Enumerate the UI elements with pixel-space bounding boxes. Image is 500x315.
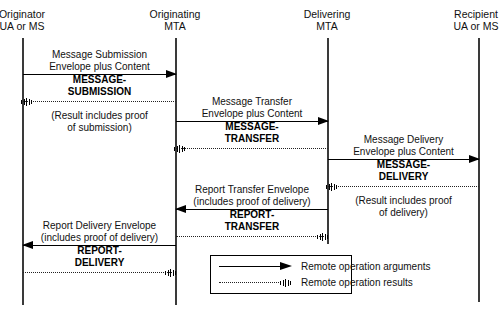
lifeline-header-line1: Originating <box>115 8 235 20</box>
operation-line1: REPORT- <box>230 209 274 220</box>
operation-line2: SUBMISSION <box>68 86 131 97</box>
arrow-head-icon <box>280 262 292 270</box>
result-terminator-icon <box>21 97 34 106</box>
lifeline-header-line2: MTA <box>115 20 235 32</box>
label-line1: Message Delivery <box>364 134 443 145</box>
lifeline-header-originating-mta: Originating MTA <box>115 8 235 32</box>
operation-line2: DELIVERY <box>75 257 125 268</box>
result-terminator-icon <box>174 144 187 153</box>
message-arguments-label-report-transfer: Report Transfer Envelope (includes proof… <box>176 184 328 207</box>
arrow-shaft <box>219 266 281 268</box>
message-arguments-label-message-delivery: Message Delivery Envelope plus Content <box>328 134 479 157</box>
operation-name-message-delivery: MESSAGE- DELIVERY <box>328 159 479 182</box>
result-dotted-line <box>176 148 328 149</box>
result-message-delivery <box>328 182 479 191</box>
result-note-message-delivery: (Result includes proof of delivery) <box>328 195 479 218</box>
lifeline-header-line2: MTA <box>267 20 387 32</box>
lifeline-header-line1: Originator <box>0 8 82 20</box>
result-message-transfer <box>176 144 328 153</box>
sequence-diagram: Originator UA or MS Originating MTA Deli… <box>0 0 500 315</box>
result-terminator-icon <box>317 232 330 241</box>
lifeline-header-delivering-mta: Delivering MTA <box>267 8 387 32</box>
label-line1: Message Submission <box>52 49 147 60</box>
label-line1: Message Transfer <box>212 96 292 107</box>
note-line1: (Result includes proof <box>51 110 148 121</box>
operation-line1: MESSAGE- <box>225 121 278 132</box>
lifeline-header-line1: Recipient <box>416 8 500 20</box>
lifeline-header-line2: UA or MS <box>0 20 82 32</box>
result-terminator-icon <box>165 268 178 277</box>
lifeline-header-originator: Originator UA or MS <box>0 8 82 32</box>
result-report-delivery <box>23 268 176 277</box>
operation-line1: REPORT- <box>77 245 121 256</box>
lifeline-header-line1: Delivering <box>267 8 387 20</box>
result-report-transfer <box>176 232 328 241</box>
result-terminator-icon <box>280 278 293 287</box>
message-arguments-label-report-delivery: Report Delivery Envelope (includes proof… <box>23 220 176 243</box>
operation-line2: TRANSFER <box>225 133 279 144</box>
legend-results-line <box>219 278 291 287</box>
result-dotted-line <box>328 186 479 187</box>
result-note-message-submission: (Result includes proof of submission) <box>23 110 176 133</box>
note-line1: (Result includes proof <box>355 195 452 206</box>
result-dotted-line <box>23 272 176 273</box>
legend-results-label: Remote operation results <box>301 277 413 288</box>
operation-name-report-transfer: REPORT- TRANSFER <box>176 209 328 232</box>
lifeline-header-line2: UA or MS <box>416 20 500 32</box>
label-line1: Report Transfer Envelope <box>195 184 309 195</box>
legend-box: Remote operation arguments Remote operat… <box>210 255 352 294</box>
operation-line1: MESSAGE- <box>73 74 126 85</box>
note-line2: of submission) <box>67 122 131 133</box>
operation-line2: TRANSFER <box>225 221 279 232</box>
result-dotted-line <box>176 236 328 237</box>
operation-line1: MESSAGE- <box>377 159 430 170</box>
legend-arguments-arrow <box>219 262 291 271</box>
operation-name-report-delivery: REPORT- DELIVERY <box>23 245 176 268</box>
note-line2: of delivery) <box>379 207 428 218</box>
operation-name-message-submission: MESSAGE- SUBMISSION <box>23 74 176 97</box>
result-dotted-line <box>23 101 176 102</box>
message-arguments-label-message-transfer: Message Transfer Envelope plus Content <box>176 96 328 119</box>
operation-name-message-transfer: MESSAGE- TRANSFER <box>176 121 328 144</box>
operation-line2: DELIVERY <box>379 171 429 182</box>
result-message-submission <box>23 97 176 106</box>
label-line1: Report Delivery Envelope <box>43 220 156 231</box>
legend-arguments-label: Remote operation arguments <box>301 261 431 272</box>
result-dotted-line <box>219 282 279 283</box>
message-arguments-label-message-submission: Message Submission Envelope plus Content <box>23 49 176 72</box>
lifeline-header-recipient: Recipient UA or MS <box>416 8 500 32</box>
